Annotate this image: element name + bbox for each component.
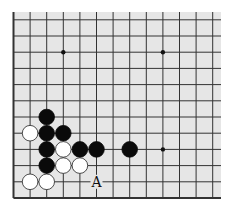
black-stone bbox=[72, 142, 88, 158]
black-stone bbox=[39, 125, 55, 141]
go-board: A bbox=[0, 0, 230, 212]
white-stone bbox=[72, 158, 88, 174]
black-stone bbox=[39, 142, 55, 158]
star-point-icon bbox=[161, 147, 165, 151]
white-stone bbox=[22, 125, 38, 141]
white-stone bbox=[39, 174, 55, 190]
black-stone bbox=[56, 125, 72, 141]
white-stone bbox=[22, 174, 38, 190]
star-point-icon bbox=[161, 50, 165, 54]
black-stone bbox=[122, 142, 138, 158]
white-stone bbox=[56, 158, 72, 174]
labels: A bbox=[90, 174, 102, 190]
star-point-icon bbox=[61, 50, 65, 54]
point-label-a: A bbox=[90, 174, 102, 190]
black-stone bbox=[39, 109, 55, 125]
black-stone bbox=[39, 158, 55, 174]
white-stone bbox=[56, 142, 72, 158]
black-stone bbox=[89, 142, 105, 158]
